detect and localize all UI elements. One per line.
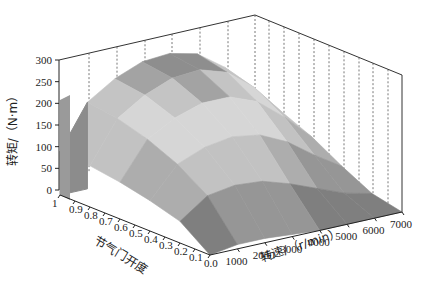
y-axis-label: 节气门开度 [91,233,150,277]
y-tick-label: 0.9 [69,203,83,215]
y-tick-label: 0.4 [144,233,158,245]
z-tick-label: 0 [47,184,53,196]
z-axis-label: 转矩/（N·m） [5,90,20,167]
y-tick-label: 0.1 [189,251,203,263]
z-tick-label: 100 [36,141,53,153]
y-tick-label: 1 [52,197,58,209]
x-tick-label: 6000 [363,224,386,236]
x-tick-label: 7000 [390,218,413,230]
z-tick-label: 300 [36,54,53,66]
y-tick-label: 0.7 [99,215,113,227]
y-tick-label: 0.8 [84,209,98,221]
z-tick-label: 50 [41,162,53,174]
y-tick-label: 0.5 [129,227,143,239]
x-tick-label: 1000 [225,255,248,267]
z-tick-label: 150 [36,119,53,131]
surface-chart: 05010015020025030010.90.80.70.60.50.40.3… [0,0,429,296]
z-tick-label: 200 [36,97,53,109]
z-tick-label: 250 [36,76,53,88]
y-tick-label: 0.3 [159,239,173,251]
y-tick-label: 0.0 [204,257,218,269]
y-tick-label: 0.2 [174,245,188,257]
y-tick-label: 0.6 [114,221,128,233]
